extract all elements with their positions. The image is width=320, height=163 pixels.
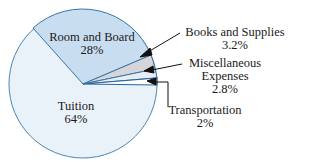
label-miscellaneous: Miscellaneous Expenses 2.8% xyxy=(180,57,270,96)
books-callout-line xyxy=(148,33,180,52)
room-board-pct: 28% xyxy=(44,44,140,57)
label-transportation: Transportation 2% xyxy=(160,104,250,130)
misc-pct: 2.8% xyxy=(180,83,270,96)
label-tuition: Tuition 64% xyxy=(46,100,106,126)
books-pct: 3.2% xyxy=(180,39,290,52)
tuition-pct: 64% xyxy=(46,113,106,126)
label-books-and-supplies: Books and Supplies 3.2% xyxy=(180,26,290,52)
transport-pct: 2% xyxy=(160,117,250,130)
misc-callout-line xyxy=(152,64,182,70)
label-room-and-board: Room and Board 28% xyxy=(44,31,140,57)
